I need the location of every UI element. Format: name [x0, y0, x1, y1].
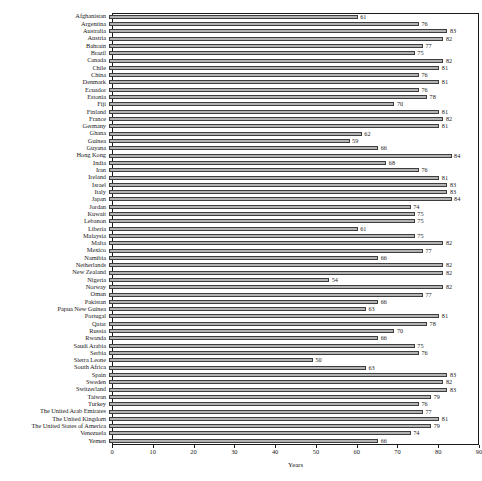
bar-value-label: 81 [439, 79, 448, 85]
bar-value-label: 70 [394, 101, 403, 107]
bar-row: Kuwait75 [0, 210, 479, 217]
x-axis-tick-label: 40 [272, 449, 278, 455]
bar [109, 132, 362, 136]
x-axis-tick-label: 70 [394, 449, 400, 455]
bar [109, 66, 439, 70]
bar [109, 358, 313, 362]
x-axis-tick-label: 60 [353, 449, 359, 455]
bar-track: 75 [109, 232, 479, 239]
category-label: Yemen [0, 438, 109, 444]
bar [109, 380, 443, 384]
bar-value-label: 81 [439, 313, 448, 319]
bar [109, 336, 378, 340]
bar-row: Liberia61 [0, 225, 479, 232]
category-label: New Zealand [0, 269, 109, 275]
category-label: Portugal [0, 313, 109, 319]
bar-track: 78 [109, 320, 479, 327]
bar [109, 117, 443, 121]
category-label: Hong Kong [0, 152, 109, 158]
bar-value-label: 81 [439, 109, 448, 115]
bar-row: Guinea59 [0, 137, 479, 144]
x-axis-tick-label: 80 [435, 449, 441, 455]
bar-value-label: 50 [313, 357, 322, 363]
bar-row: Canada82 [0, 57, 479, 64]
category-label: Israel [0, 182, 109, 188]
x-axis-tick-label: 20 [190, 449, 196, 455]
bar-track: 81 [109, 174, 479, 181]
bar [109, 102, 394, 106]
bar-track: 82 [109, 240, 479, 247]
bar-track: 66 [109, 437, 479, 444]
category-label: The United Arab Emirates [0, 408, 109, 414]
bar [109, 263, 443, 267]
bar-value-label: 81 [439, 123, 448, 129]
bar [109, 190, 447, 194]
category-label: Ghana [0, 130, 109, 136]
bar-track: 83 [109, 28, 479, 35]
bar-track: 83 [109, 371, 479, 378]
bar [109, 329, 394, 333]
bar-row: Bahrain77 [0, 42, 479, 49]
bar-track: 63 [109, 306, 479, 313]
bar-row: Iran76 [0, 167, 479, 174]
bar [109, 154, 452, 158]
bar-value-label: 84 [452, 152, 461, 158]
bar-value-label: 63 [366, 365, 375, 371]
bar-value-label: 81 [439, 416, 448, 422]
bar [109, 197, 452, 201]
bar-row: Sweden82 [0, 379, 479, 386]
bar-value-label: 66 [378, 438, 387, 444]
bar [109, 271, 443, 275]
bar-value-label: 75 [415, 233, 424, 239]
bar-row: Argentina76 [0, 20, 479, 27]
category-label: Venezuela [0, 430, 109, 436]
bar-track: 77 [109, 247, 479, 254]
bar [109, 146, 378, 150]
x-axis-tick-label: 0 [110, 449, 113, 455]
bar-row: Malta82 [0, 240, 479, 247]
bar-track: 66 [109, 254, 479, 261]
bar-row: Taiwan79 [0, 393, 479, 400]
bar-row: India68 [0, 159, 479, 166]
bar-value-label: 61 [358, 14, 367, 20]
category-label: Saudi Arabia [0, 343, 109, 349]
bar-row: Austria82 [0, 35, 479, 42]
bar-value-label: 79 [431, 394, 440, 400]
bar-value-label: 81 [439, 65, 448, 71]
bar-row: South Africa63 [0, 364, 479, 371]
bar [109, 22, 419, 26]
bar [109, 44, 423, 48]
bar-track: 54 [109, 276, 479, 283]
bar-value-label: 77 [423, 43, 432, 49]
bar [109, 168, 419, 172]
bar-value-label: 77 [423, 408, 432, 414]
bar-row: Oman77 [0, 291, 479, 298]
bar-value-label: 66 [378, 299, 387, 305]
bar [109, 205, 411, 209]
bar-track: 83 [109, 181, 479, 188]
category-label: Mexico [0, 247, 109, 253]
bar [109, 351, 419, 355]
bar-value-label: 54 [329, 277, 338, 283]
bar-row: China76 [0, 72, 479, 79]
category-label: Switzerland [0, 386, 109, 392]
bar [109, 300, 378, 304]
bar-row: Fiji70 [0, 101, 479, 108]
bar [109, 439, 378, 443]
bar-value-label: 82 [443, 116, 452, 122]
category-label: Estonia [0, 94, 109, 100]
bar-value-label: 76 [419, 21, 428, 27]
bar-track: 70 [109, 327, 479, 334]
bar-value-label: 62 [362, 131, 371, 137]
x-axis-tick-label: 10 [150, 449, 156, 455]
category-label: Afghanistan [0, 13, 109, 19]
category-label: Fiji [0, 101, 109, 107]
bar-row: Brazil75 [0, 50, 479, 57]
category-label: South Africa [0, 364, 109, 370]
bar-value-label: 78 [427, 94, 436, 100]
bar [109, 59, 443, 63]
bar-value-label: 82 [443, 262, 452, 268]
bar-track: 82 [109, 115, 479, 122]
bar-value-label: 76 [419, 350, 428, 356]
bar [109, 219, 415, 223]
